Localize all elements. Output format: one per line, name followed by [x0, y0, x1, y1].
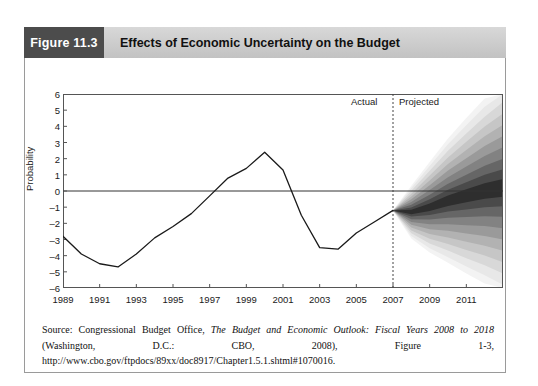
x-tick-label: 1995	[162, 294, 183, 305]
x-tick-label: 1997	[199, 294, 220, 305]
plot-svg	[63, 94, 503, 288]
x-tick-label: 2009	[419, 294, 440, 305]
y-tick-label: –4	[38, 250, 60, 261]
y-axis-ticks: 6543210–1–2–3–4–5–6	[30, 88, 60, 313]
x-tick-label: 2001	[272, 294, 293, 305]
y-tick-label: 5	[38, 105, 60, 116]
source-suffix: (Washington, D.C.: CBO, 2008), Figure 1-…	[42, 340, 494, 367]
projected-region-label: Projected	[399, 96, 439, 107]
x-tick-label: 2007	[382, 294, 403, 305]
y-tick-label: –6	[38, 283, 60, 294]
actual-series-line	[63, 152, 393, 267]
figure-header: Figure 11.3 Effects of Economic Uncertai…	[24, 27, 506, 58]
x-axis-ticks: 1989199119931995199719992001200320052007…	[30, 294, 508, 310]
source-caption: Source: Congressional Budget Office, The…	[42, 322, 494, 369]
x-tick-label: 2011	[456, 294, 476, 305]
y-tick-label: –2	[38, 218, 60, 229]
figure-page: Figure 11.3 Effects of Economic Uncertai…	[0, 0, 538, 386]
y-tick-label: –5	[38, 266, 60, 277]
x-tick-label: 2003	[309, 294, 330, 305]
x-tick-label: 1999	[236, 294, 257, 305]
y-tick-label: 2	[38, 153, 60, 164]
y-tick-label: 1	[38, 169, 60, 180]
x-tick-label: 2005	[346, 294, 367, 305]
source-italic-title: The Budget and Economic Outlook: Fiscal …	[211, 324, 494, 335]
figure-number-tag: Figure 11.3	[24, 27, 104, 58]
plot-canvas	[63, 94, 503, 288]
figure-title: Effects of Economic Uncertainty on the B…	[104, 27, 506, 58]
actual-region-label: Actual	[351, 96, 377, 107]
x-tick-label: 1991	[89, 294, 110, 305]
y-tick-label: 6	[38, 89, 60, 100]
y-tick-label: –1	[38, 202, 60, 213]
y-tick-label: 0	[38, 186, 60, 197]
chart-area: Probability 6543210–1–2–3–4–5–6 19891991…	[30, 88, 508, 313]
source-prefix: Source: Congressional Budget Office,	[42, 324, 211, 335]
x-tick-label: 1989	[52, 294, 73, 305]
y-tick-label: –3	[38, 234, 60, 245]
y-tick-label: 3	[38, 137, 60, 148]
y-tick-label: 4	[38, 121, 60, 132]
x-tick-label: 1993	[126, 294, 147, 305]
